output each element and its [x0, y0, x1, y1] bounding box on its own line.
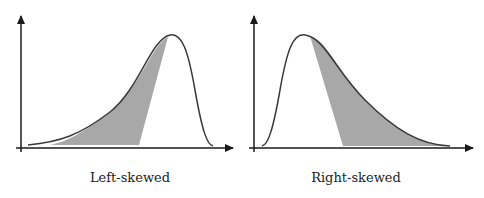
left-shade — [50, 37, 168, 145]
skewness-diagram — [0, 0, 484, 198]
right-skewed-label: Right-skewed — [311, 170, 401, 185]
left-skewed-panel — [16, 16, 233, 152]
right-shade — [310, 36, 450, 146]
right-skewed-panel — [249, 16, 473, 152]
left-skewed-label: Left-skewed — [90, 170, 170, 185]
